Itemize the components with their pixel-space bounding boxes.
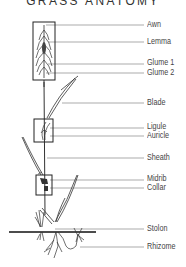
label-glume-1: Glume 1 [147,58,174,67]
label-glume-2: Glume 2 [147,68,174,77]
left-blade [22,137,43,175]
label-rhizome: Rhizome [147,242,175,251]
label-ligule: Ligule [147,122,166,131]
label-awn: Awn [147,20,161,29]
label-sheath: Sheath [147,153,170,162]
collar-inset [36,172,52,195]
leader-lines [46,25,144,247]
label-auricle: Auricle [147,131,169,140]
ligule-inset [34,119,53,142]
spikelet-inset [33,22,55,80]
label-lemma: Lemma [147,37,171,46]
blade [47,76,78,118]
label-collar: Collar [147,183,166,192]
label-midrib: Midrib [147,174,167,183]
label-stolon: Stolon [147,224,167,233]
label-blade: Blade [147,98,165,107]
